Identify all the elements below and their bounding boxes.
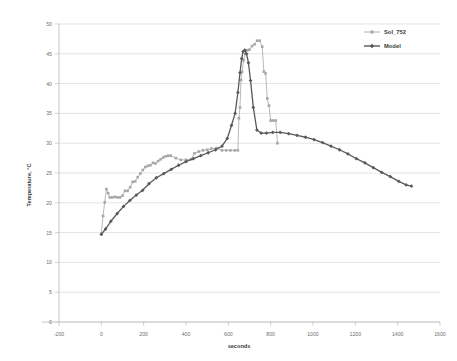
data-point <box>175 157 178 160</box>
data-point <box>159 158 162 161</box>
data-point <box>221 149 224 152</box>
data-point <box>162 156 165 159</box>
data-point <box>103 201 106 204</box>
x-tick-labels: -20002004006008001000120014001600 <box>54 322 446 337</box>
data-point <box>329 144 333 148</box>
x-tick-label: 1200 <box>350 331 362 337</box>
data-point <box>147 165 150 168</box>
data-point <box>249 79 253 83</box>
x-axis-title: seconds <box>228 343 251 349</box>
data-point <box>258 39 261 42</box>
data-point <box>157 160 160 163</box>
data-point <box>268 104 271 107</box>
data-point <box>238 117 241 120</box>
data-point <box>144 166 147 169</box>
data-point <box>134 180 137 183</box>
data-point <box>149 164 152 167</box>
data-point <box>119 196 122 199</box>
x-tick-label: 600 <box>224 331 233 337</box>
data-point <box>154 162 157 165</box>
data-point <box>304 135 308 139</box>
data-point <box>264 72 267 75</box>
data-point <box>102 215 105 218</box>
x-tick-label: 800 <box>266 331 275 337</box>
data-point <box>111 196 114 199</box>
data-point <box>265 131 269 135</box>
data-point <box>229 149 232 152</box>
data-point <box>121 194 124 197</box>
y-tick-label: 40 <box>46 81 52 87</box>
data-point <box>312 138 316 142</box>
data-point <box>114 196 117 199</box>
data-point <box>278 131 282 135</box>
series-line <box>101 50 411 234</box>
data-point <box>240 79 243 82</box>
data-point <box>269 119 272 122</box>
y-tick-label: 50 <box>46 21 52 27</box>
data-point <box>129 186 132 189</box>
y-tick-label: 0 <box>49 319 52 325</box>
data-point <box>295 134 299 138</box>
data-point <box>193 152 196 155</box>
data-point <box>210 147 213 150</box>
data-point <box>105 188 108 191</box>
data-point <box>116 196 119 199</box>
x-tick-label: 200 <box>139 331 148 337</box>
data-point <box>142 169 145 172</box>
y-tick-label: 35 <box>46 110 52 116</box>
data-point <box>109 196 112 199</box>
data-point <box>251 106 255 110</box>
y-tick-label: 15 <box>46 230 52 236</box>
series-line <box>101 41 277 234</box>
data-point <box>136 176 139 179</box>
data-point <box>410 184 414 188</box>
data-point <box>239 106 242 109</box>
data-point <box>253 43 256 46</box>
data-point <box>256 39 259 42</box>
y-tick-label: 25 <box>46 170 52 176</box>
y-axis-title: Temperature, °C <box>26 164 32 207</box>
data-point <box>206 151 210 155</box>
data-point <box>276 142 279 145</box>
data-point <box>164 155 167 158</box>
y-tick-label: 10 <box>46 259 52 265</box>
series-model <box>99 48 413 236</box>
x-tick-label: 1600 <box>434 331 446 337</box>
x-tick-label: 1000 <box>307 331 319 337</box>
data-point <box>206 148 209 151</box>
y-tick-label: 5 <box>49 289 52 295</box>
temperature-time-chart: 05101520253035404550 -200020040060080010… <box>0 0 457 361</box>
x-tick-label: 400 <box>182 331 191 337</box>
data-point <box>274 119 277 122</box>
data-point <box>233 112 237 116</box>
x-tick-label: 0 <box>100 331 103 337</box>
data-point <box>180 159 183 162</box>
y-tick-labels: 05101520253035404550 <box>46 21 59 325</box>
data-point <box>236 91 240 95</box>
x-tick-label: -200 <box>54 331 64 337</box>
data-point <box>248 48 251 51</box>
y-tick-label: 45 <box>46 51 52 57</box>
data-point <box>271 131 275 135</box>
data-point <box>237 149 240 152</box>
chart-container: 05101520253035404550 -200020040060080010… <box>0 0 457 361</box>
data-point <box>169 154 172 157</box>
data-point <box>321 141 325 145</box>
data-point <box>272 119 275 122</box>
data-point <box>266 97 269 100</box>
data-point <box>152 162 155 165</box>
data-point <box>124 190 127 193</box>
data-point <box>251 45 254 48</box>
legend-label-model: Model <box>384 43 401 49</box>
data-point <box>107 192 110 195</box>
data-point <box>287 132 291 136</box>
series-sol-752 <box>100 39 279 235</box>
data-point <box>225 149 228 152</box>
data-point <box>126 190 129 193</box>
legend-marker-model <box>370 44 374 48</box>
legend: Sol_752Model <box>364 29 406 49</box>
data-point <box>167 154 170 157</box>
data-point <box>131 181 134 184</box>
data-point <box>197 150 200 153</box>
data-point <box>247 61 251 65</box>
